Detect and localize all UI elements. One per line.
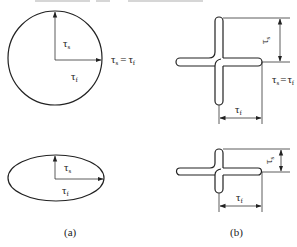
cross-outline-lower [215,58,262,105]
tau-s-dimension-label: τs [258,37,272,44]
cross-outline-upper [176,17,223,66]
diagram-canvas: τs τf τs=τf τs τf (a) [0,0,297,247]
yield-ellipse: τs τf [8,155,104,201]
caption-a: (a) [64,226,77,239]
tau-equality-label: τs=τf [111,53,136,67]
tau-s-dimension-label: τs [262,157,276,164]
clipped-caption-fragment [35,0,203,2]
yield-circle: τs τf τs=τf [8,11,136,105]
caption-b: (b) [230,226,243,239]
panel-b: τs τf τs=τf τs τf (b) [176,17,295,239]
tau-f-dimension-label: τf [235,103,242,117]
tau-f-dimension-label: τf [236,191,243,205]
ellipse-outline [8,155,104,201]
panel-a: τs τf τs=τf τs τf (a) [8,11,136,239]
tau-f-label: τf [71,70,78,84]
tau-f-label: τf [62,184,69,198]
tau-s-label: τs [63,37,70,51]
cross-bottom: τs τf [177,149,291,212]
tau-equality-label: τs=τf [272,73,295,87]
cross-outline-lower [215,168,262,193]
cross-top: τs τf τs=τf [176,17,295,124]
tau-s-label: τs [64,161,71,175]
